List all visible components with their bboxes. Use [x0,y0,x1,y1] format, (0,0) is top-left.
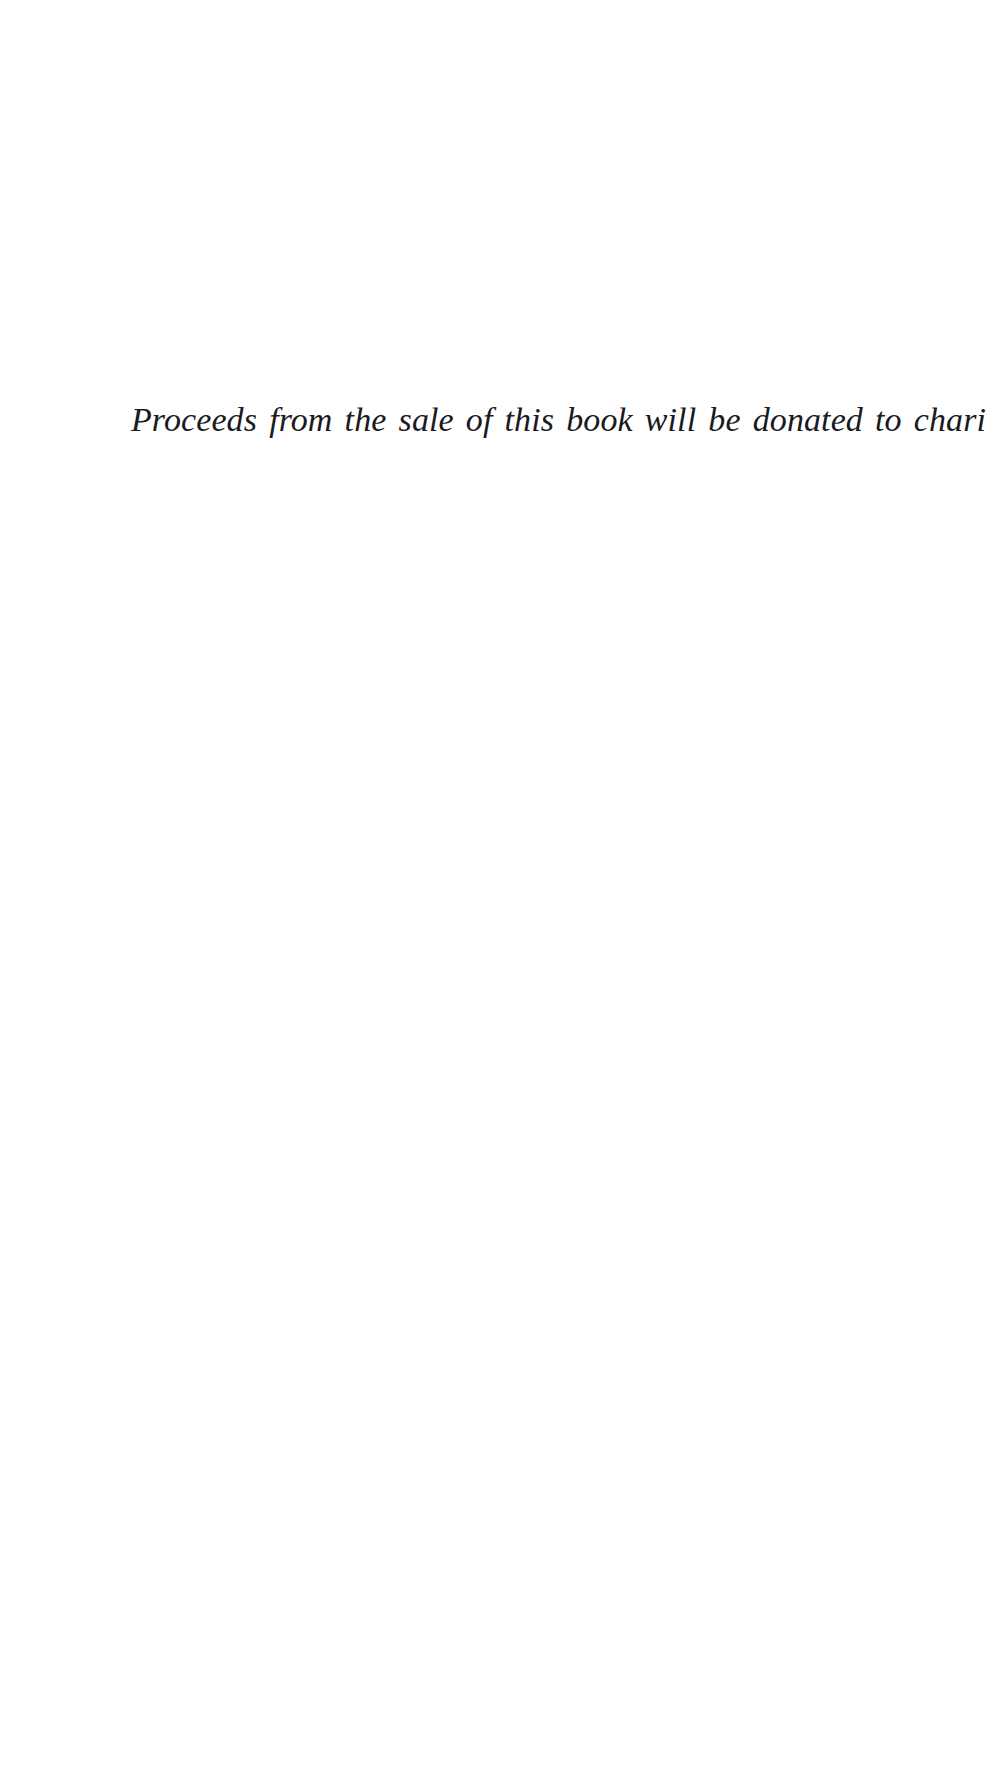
charity-donation-note: Proceeds from the sale of this book will… [131,398,831,442]
book-page: Proceeds from the sale of this book will… [0,0,987,1767]
blank-margin-top [0,0,987,398]
blank-margin-bottom [0,442,987,1767]
